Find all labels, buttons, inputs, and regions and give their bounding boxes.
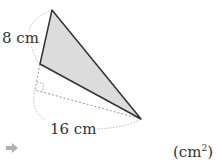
triangle-diagram bbox=[0, 0, 217, 163]
label-8cm: 8 cm bbox=[2, 31, 39, 46]
shaded-triangle bbox=[40, 10, 141, 119]
unit-close: ) bbox=[207, 143, 213, 161]
label-16cm: 16 cm bbox=[50, 122, 96, 137]
unit-text: (cm bbox=[173, 143, 201, 161]
answer-unit: (cm2) bbox=[173, 143, 213, 161]
arrow-icon bbox=[6, 143, 18, 153]
